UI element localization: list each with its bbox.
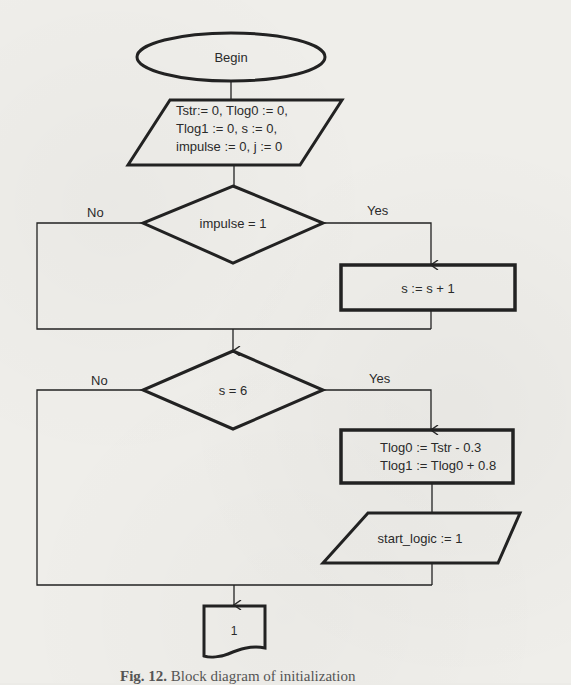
figure-caption: Fig. 12. Block diagram of initialization	[120, 668, 355, 685]
decision-impulse-yes-label: Yes	[367, 204, 388, 217]
begin-label: Begin	[214, 51, 247, 64]
set-tlog-line-2: Tlog1 := Tlog0 + 0.8	[380, 457, 496, 475]
increment-s-label: s := s + 1	[401, 282, 454, 295]
decision-impulse-label: impulse = 1	[200, 217, 267, 230]
init-line-2: Tlog1 := 0, s := 0,	[176, 120, 288, 138]
caption-prefix: Fig. 12.	[120, 668, 167, 684]
set-tlog-text: Tlog0 := Tstr - 0.3 Tlog1 := Tlog0 + 0.8	[380, 439, 496, 475]
start-logic-label: start_logic := 1	[378, 532, 463, 545]
decision-s-yes-label: Yes	[369, 372, 390, 385]
caption-text: Block diagram of initialization	[171, 668, 356, 684]
init-line-3: impulse := 0, j := 0	[176, 138, 288, 156]
decision-s-label: s = 6	[219, 384, 248, 397]
set-tlog-line-1: Tlog0 := Tstr - 0.3	[380, 439, 496, 457]
decision-impulse-no-label: No	[87, 206, 104, 219]
init-text: Tstr:= 0, Tlog0 := 0, Tlog1 := 0, s := 0…	[176, 102, 288, 156]
init-line-1: Tstr:= 0, Tlog0 := 0,	[176, 102, 288, 120]
decision-s-no-label: No	[91, 374, 108, 387]
connector-label: 1	[231, 625, 238, 637]
